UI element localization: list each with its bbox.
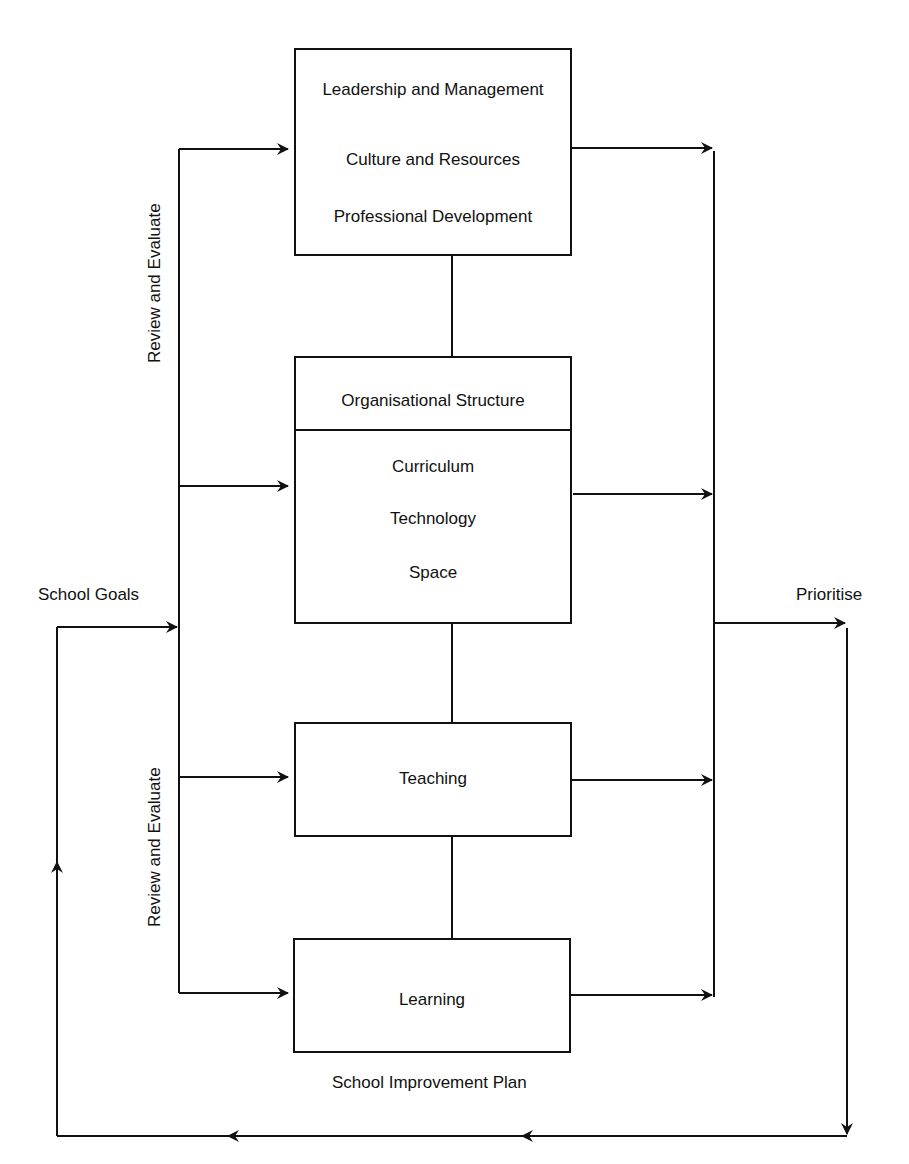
learning-box: Learning <box>293 938 571 1053</box>
leadership-box: Leadership and Management Culture and Re… <box>294 48 572 256</box>
school-goals-label: School Goals <box>38 585 139 605</box>
culture-label: Culture and Resources <box>296 150 570 170</box>
teaching-label: Teaching <box>296 769 570 789</box>
review-evaluate-lower-label: Review and Evaluate <box>145 767 165 927</box>
curriculum-label: Curriculum <box>296 457 570 477</box>
organisational-structure-label: Organisational Structure <box>296 391 570 411</box>
space-label: Space <box>296 563 570 583</box>
school-improvement-plan-label: School Improvement Plan <box>332 1073 527 1093</box>
review-evaluate-upper-label: Review and Evaluate <box>145 203 165 363</box>
learning-label: Learning <box>295 990 569 1010</box>
professional-development-label: Professional Development <box>296 207 570 227</box>
teaching-box: Teaching <box>294 722 572 837</box>
organisation-box: Organisational Structure Curriculum Tech… <box>294 356 572 624</box>
organisation-divider <box>296 429 570 431</box>
prioritise-label: Prioritise <box>796 585 862 605</box>
leadership-label: Leadership and Management <box>296 80 570 100</box>
technology-label: Technology <box>296 509 570 529</box>
